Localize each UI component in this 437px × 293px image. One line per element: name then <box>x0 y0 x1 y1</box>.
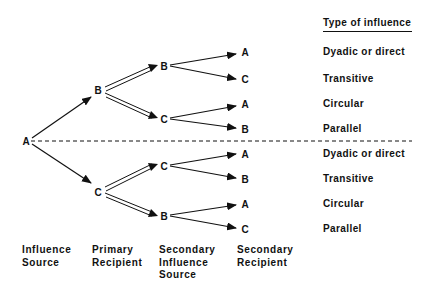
type-label: Dyadic or direct <box>323 148 405 160</box>
node-primary-top: B <box>94 85 101 96</box>
node-leaf: C <box>241 224 248 235</box>
node-secondary: C <box>160 114 167 125</box>
type-label: Parallel <box>323 123 362 135</box>
node-secondary: B <box>160 211 167 222</box>
type-label: Parallel <box>323 223 362 235</box>
type-label: Circular <box>323 198 364 210</box>
type-label: Transitive <box>323 73 374 85</box>
type-label: Transitive <box>323 173 374 185</box>
node-leaf: B <box>241 124 248 135</box>
node-source: A <box>22 136 29 147</box>
node-leaf: A <box>241 99 248 110</box>
type-label: Circular <box>323 98 364 110</box>
column-label-influence-source: InfluenceSource <box>22 244 71 269</box>
node-leaf: C <box>241 74 248 85</box>
node-leaf: A <box>241 199 248 210</box>
type-header: Type of influence <box>323 17 412 32</box>
node-secondary: C <box>160 161 167 172</box>
column-label-secondary-influence-source: SecondaryInfluenceSource <box>159 244 216 282</box>
type-label: Dyadic or direct <box>323 46 405 58</box>
column-label-secondary-recipient: SecondaryRecipient <box>237 244 294 269</box>
node-secondary: B <box>160 61 167 72</box>
column-label-primary-recipient: PrimaryRecipient <box>92 244 142 269</box>
node-leaf: A <box>241 149 248 160</box>
node-leaf: B <box>241 174 248 185</box>
node-primary-bottom: C <box>94 187 101 198</box>
node-leaf: A <box>241 47 248 58</box>
